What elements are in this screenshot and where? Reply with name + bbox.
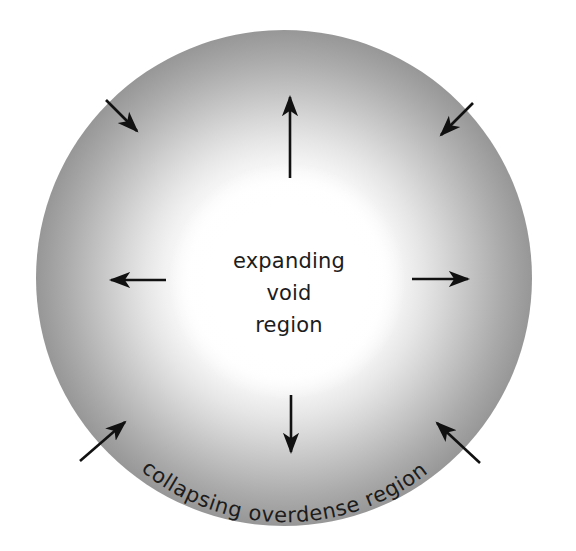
void-label-line-3: region [255,313,323,337]
diagram-canvas: expanding void region collapsing overden… [0,0,576,551]
void-label-line-1: expanding [233,249,345,273]
void-label-line-2: void [266,281,311,305]
void-diagram-figure: expanding void region collapsing overden… [0,0,576,551]
